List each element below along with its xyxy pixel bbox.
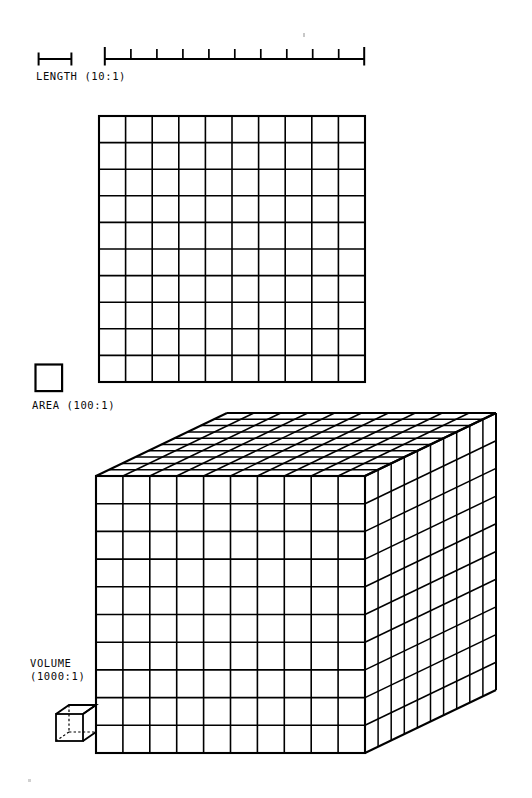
length-label: LENGTH (10:1) [36,70,126,83]
volume-unit-cube [56,705,96,741]
cube-top-face [96,413,496,476]
area-unit-square [36,365,63,392]
figure-canvas: LENGTH (10:1) AREA (100:1) VOLUME(1000:1… [0,0,532,798]
volume-label-line1: VOLUME [30,657,72,669]
length-magnified-ruler [104,47,365,66]
cube-front-face [96,476,365,753]
scan-speck-top [303,33,305,37]
area-label: AREA (100:1) [32,399,115,412]
volume-label-line2: (1000:1) [30,670,85,682]
volume-label: VOLUME(1000:1) [30,657,85,683]
area-magnified-grid [99,116,365,382]
scan-speck-bottom [28,779,31,782]
length-unit-segment [38,53,72,66]
volume-magnified-cube [96,413,496,753]
